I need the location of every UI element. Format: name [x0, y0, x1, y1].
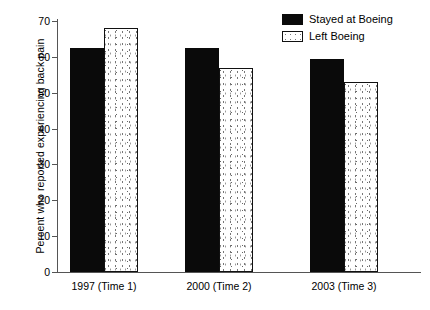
bar — [219, 68, 253, 272]
legend-label: Left Boeing — [309, 31, 365, 42]
bar — [344, 82, 378, 272]
y-axis-tick-label-wrap: 10 — [14, 231, 50, 241]
x-axis-category-label: 1997 (Time 1) — [59, 280, 149, 292]
legend-swatch-solid-icon — [282, 14, 303, 25]
x-axis-category-label: 2000 (Time 2) — [174, 280, 264, 292]
y-axis-tick-label: 20 — [22, 195, 50, 205]
y-axis-tick-label-wrap: 60 — [14, 52, 50, 62]
y-axis-tick-label-wrap: 40 — [14, 124, 50, 134]
bar — [310, 59, 344, 272]
y-axis-tick-label: 70 — [22, 16, 50, 26]
legend-item-stayed-at-boeing: Stayed at Boeing — [282, 12, 393, 26]
y-axis-tick-label: 50 — [22, 88, 50, 98]
plot-area — [57, 21, 420, 272]
y-axis-tick-label: 30 — [22, 159, 50, 169]
legend-swatch-dotted-icon — [282, 31, 303, 42]
legend: Stayed at Boeing Left Boeing — [282, 12, 393, 46]
bar-chart: Percent who reported experiencing back p… — [0, 0, 430, 310]
legend-item-left-boeing: Left Boeing — [282, 29, 393, 43]
y-axis-tick-label-wrap: 50 — [14, 88, 50, 98]
y-axis-tick-label: 40 — [22, 124, 50, 134]
y-axis-tick — [52, 272, 57, 273]
bar — [185, 48, 219, 272]
y-axis-tick-label-wrap: 70 — [14, 16, 50, 26]
bar — [70, 48, 104, 272]
y-axis-tick-label-wrap: 30 — [14, 159, 50, 169]
y-axis-tick-label-wrap: 0 — [14, 267, 50, 277]
bar — [104, 28, 138, 272]
y-axis-tick-label-wrap: 20 — [14, 195, 50, 205]
x-axis-category-label: 2003 (Time 3) — [299, 280, 389, 292]
legend-label: Stayed at Boeing — [309, 14, 393, 25]
x-axis-line — [57, 272, 421, 273]
y-axis-tick-label: 10 — [22, 231, 50, 241]
y-axis-tick-label: 60 — [22, 52, 50, 62]
y-axis-tick-label: 0 — [22, 267, 50, 277]
